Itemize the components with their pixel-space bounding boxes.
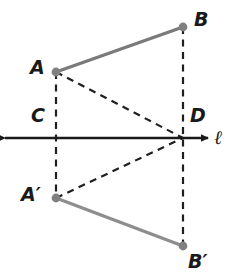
dashed-A-to-D: [56, 72, 183, 138]
point-dot-B: [179, 23, 188, 32]
point-dot-B-prime: [179, 242, 188, 251]
point-label-D: D: [190, 106, 206, 125]
point-dot-A: [52, 68, 61, 77]
point-label-A: A: [30, 58, 45, 77]
point-label-B: B: [194, 10, 208, 29]
dashed-A-prime-to-D: [56, 138, 183, 198]
segment-A-prime-B-prime: [56, 198, 183, 246]
point-label-A-prime: A′: [21, 185, 41, 204]
line-label-ell: ℓ: [214, 128, 222, 147]
figure-canvas: [0, 0, 230, 278]
point-label-B-prime: B′: [188, 252, 208, 271]
segment-AB: [56, 27, 183, 72]
point-label-C: C: [31, 106, 45, 125]
point-dot-A-prime: [52, 194, 61, 203]
geometry-figure: A B C D A′ B′ ℓ: [0, 0, 230, 278]
